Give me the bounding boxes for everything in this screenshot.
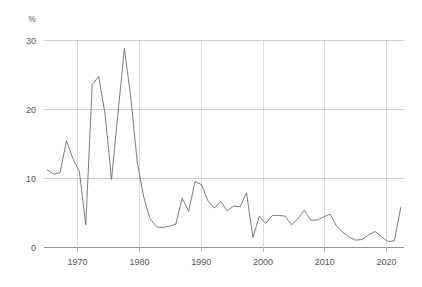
- x-tick-label-2010: 2010: [315, 257, 335, 267]
- x-tick-label-1970: 1970: [68, 257, 88, 267]
- gridlines-vertical: [78, 41, 387, 248]
- series-group: [47, 49, 401, 242]
- x-axis-tick-marks: [78, 248, 387, 252]
- line-chart: % 30 20 10 0 1970 1980 1990 2000 2010 20…: [0, 0, 422, 287]
- x-tick-label-2020: 2020: [377, 257, 397, 267]
- y-tick-label-30: 30: [26, 36, 36, 46]
- y-tick-label-0: 0: [31, 243, 36, 253]
- y-tick-label-20: 20: [26, 105, 36, 115]
- series-line-1: [47, 49, 401, 242]
- y-tick-label-10: 10: [26, 174, 36, 184]
- x-tick-label-1990: 1990: [191, 257, 211, 267]
- gridlines-horizontal: [44, 41, 404, 248]
- x-axis-labels: 1970 1980 1990 2000 2010 2020: [68, 257, 397, 267]
- y-axis-labels: % 30 20 10 0: [26, 14, 36, 253]
- chart-container: % 30 20 10 0 1970 1980 1990 2000 2010 20…: [0, 0, 422, 287]
- x-tick-label-1980: 1980: [129, 257, 149, 267]
- x-tick-label-2000: 2000: [253, 257, 273, 267]
- y-axis-unit-label: %: [28, 14, 36, 24]
